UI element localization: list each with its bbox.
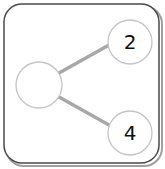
tree-diagram: 2 4 xyxy=(0,0,165,169)
diagram-card: 2 4 xyxy=(0,0,165,169)
node-child-top-label: 2 xyxy=(124,30,137,54)
node-root xyxy=(16,62,62,108)
node-child-top: 2 xyxy=(108,20,152,64)
node-child-bottom: 4 xyxy=(108,111,152,155)
node-child-bottom-label: 4 xyxy=(124,121,137,145)
node-root-circle xyxy=(16,62,62,108)
